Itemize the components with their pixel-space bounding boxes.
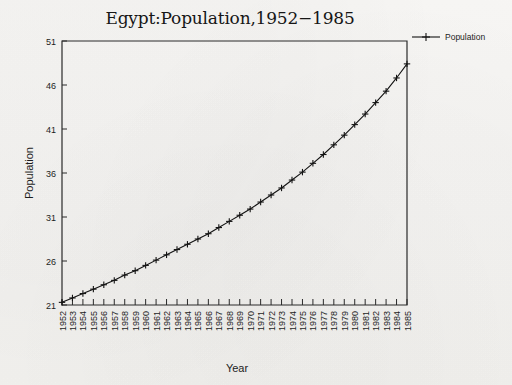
x-tick-label: 1969 [235, 311, 245, 331]
x-tick-label: 1954 [78, 311, 88, 331]
x-tick-label: 1970 [246, 311, 256, 331]
x-tick-labels: 1952195319541955195619571958195919601961… [58, 311, 413, 331]
y-tick-label: 51 [46, 37, 56, 47]
y-tick-label: 41 [46, 125, 56, 135]
x-tick-label: 1955 [89, 311, 99, 331]
y-tick-label: 36 [46, 169, 56, 179]
x-axis-ticks [62, 299, 407, 305]
x-tick-label: 1983 [382, 311, 392, 331]
x-tick-label: 1981 [361, 311, 371, 331]
x-tick-label: 1968 [225, 311, 235, 331]
x-tick-label: 1961 [152, 311, 162, 331]
x-tick-label: 1971 [256, 311, 266, 331]
x-tick-label: 1958 [120, 311, 130, 331]
x-tick-label: 1966 [204, 311, 214, 331]
x-tick-label: 1982 [371, 311, 381, 331]
y-axis-ticks [62, 41, 67, 305]
x-tick-label: 1984 [392, 311, 402, 331]
x-tick-label: 1952 [58, 311, 68, 331]
y-tick-label: 26 [46, 257, 56, 267]
legend-marker-icon [412, 32, 440, 42]
x-tick-label: 1979 [340, 311, 350, 331]
x-tick-label: 1963 [173, 311, 183, 331]
x-tick-label: 1967 [214, 311, 224, 331]
axis-frame [62, 41, 407, 305]
x-tick-label: 1956 [99, 311, 109, 331]
x-tick-label: 1975 [298, 311, 308, 331]
x-tick-label: 1980 [350, 311, 360, 331]
x-tick-label: 1978 [329, 311, 339, 331]
plot-area: 21263136414651 1952195319541955195619571… [0, 0, 512, 385]
legend-entry-label: Population [445, 32, 485, 42]
x-tick-label: 1960 [141, 311, 151, 331]
y-tick-label: 21 [46, 301, 56, 311]
chart-figure: Egypt:Population,1952−1985 2126313641465… [0, 0, 512, 385]
y-tick-label: 31 [46, 213, 56, 223]
series-population [59, 61, 410, 306]
y-axis-label: Population [23, 147, 35, 199]
x-tick-label: 1976 [308, 311, 318, 331]
x-tick-label: 1959 [131, 311, 141, 331]
x-tick-label: 1964 [183, 311, 193, 331]
x-tick-label: 1962 [162, 311, 172, 331]
x-tick-label: 1953 [68, 311, 78, 331]
x-tick-label: 1973 [277, 311, 287, 331]
x-tick-label: 1965 [193, 311, 203, 331]
x-tick-label: 1985 [403, 311, 413, 331]
x-tick-label: 1977 [319, 311, 329, 331]
x-tick-label: 1974 [288, 311, 298, 331]
y-tick-label: 46 [46, 81, 56, 91]
x-axis-label: Year [226, 362, 249, 374]
x-tick-label: 1957 [110, 311, 120, 331]
x-tick-label: 1972 [267, 311, 277, 331]
chart-legend: Population [412, 32, 485, 42]
y-tick-labels: 21263136414651 [46, 37, 56, 311]
